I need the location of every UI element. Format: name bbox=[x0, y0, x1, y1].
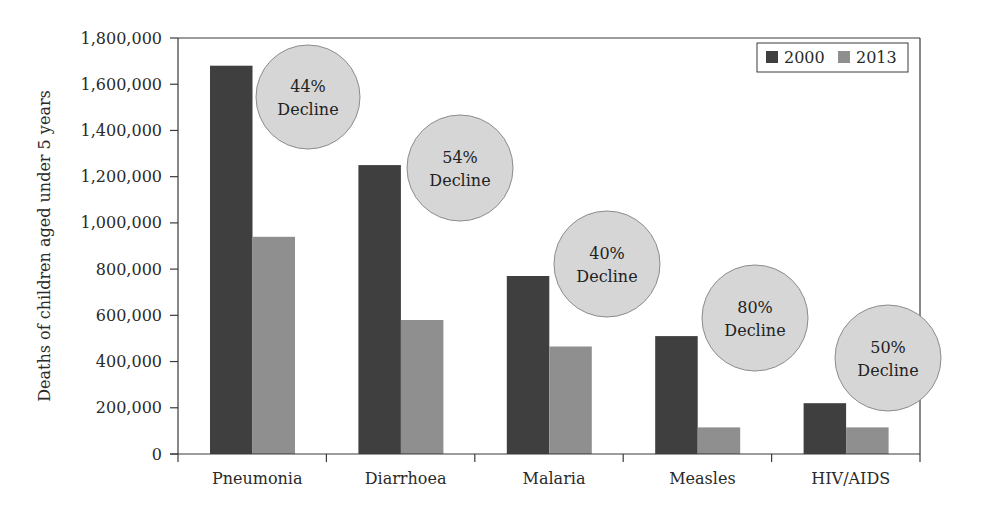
y-tick-label: 1,800,000 bbox=[81, 29, 162, 48]
bubble-label: Decline bbox=[576, 267, 637, 286]
decline-bubble: 50%Decline bbox=[835, 305, 941, 411]
x-category-label: Pneumonia bbox=[212, 469, 303, 488]
legend: 20002013 bbox=[757, 43, 908, 72]
bar-2000-diarrhoea bbox=[358, 165, 401, 454]
y-axis-title-group: Deaths of children aged under 5 years bbox=[35, 90, 54, 402]
bar-2000-pneumonia bbox=[210, 66, 253, 454]
bubble-label: Decline bbox=[857, 361, 918, 380]
decline-bubble: 54%Decline bbox=[407, 115, 513, 221]
decline-bubble: 40%Decline bbox=[554, 211, 660, 317]
bubble-percent: 40% bbox=[589, 244, 625, 263]
y-axis-ticks: 0200,000400,000600,000800,0001,000,0001,… bbox=[81, 29, 178, 464]
x-category-label: Diarrhoea bbox=[365, 469, 447, 488]
bar-2013-hivaids bbox=[846, 427, 889, 454]
x-category-label: Malaria bbox=[523, 469, 586, 488]
bubble-label: Decline bbox=[277, 100, 338, 119]
bubble-percent: 80% bbox=[737, 298, 773, 317]
bar-2000-hivaids bbox=[804, 403, 847, 454]
bubble-circle bbox=[702, 265, 808, 371]
bar-2013-malaria bbox=[549, 347, 592, 455]
legend-label-2013: 2013 bbox=[856, 48, 897, 67]
decline-bubble: 80%Decline bbox=[702, 265, 808, 371]
bubble-circle bbox=[256, 45, 360, 149]
bar-2000-measles bbox=[655, 336, 698, 454]
y-tick-label: 1,200,000 bbox=[81, 167, 162, 186]
y-tick-label: 200,000 bbox=[96, 398, 162, 417]
bubble-percent: 54% bbox=[442, 148, 478, 167]
decline-bubble: 44%Decline bbox=[256, 45, 360, 149]
y-tick-label: 800,000 bbox=[96, 260, 162, 279]
bubble-label: Decline bbox=[429, 171, 490, 190]
y-tick-label: 400,000 bbox=[96, 352, 162, 371]
bubble-circle bbox=[407, 115, 513, 221]
legend-swatch-2000 bbox=[766, 51, 778, 63]
bubble-percent: 44% bbox=[290, 77, 326, 96]
bar-chart: Deaths of children aged under 5 years 02… bbox=[0, 0, 985, 513]
y-tick-label: 0 bbox=[152, 445, 162, 464]
legend-label-2000: 2000 bbox=[784, 48, 825, 67]
bubble-label: Decline bbox=[724, 321, 785, 340]
y-axis-title: Deaths of children aged under 5 years bbox=[35, 90, 54, 402]
bar-2013-diarrhoea bbox=[401, 320, 444, 454]
y-tick-label: 600,000 bbox=[96, 306, 162, 325]
bubble-percent: 50% bbox=[870, 338, 906, 357]
bubble-circle bbox=[554, 211, 660, 317]
bar-2013-pneumonia bbox=[253, 237, 296, 454]
bubble-circle bbox=[835, 305, 941, 411]
x-category-label: Measles bbox=[669, 469, 735, 488]
bar-2000-malaria bbox=[507, 276, 550, 454]
y-tick-label: 1,600,000 bbox=[81, 75, 162, 94]
bar-2013-measles bbox=[698, 427, 741, 454]
x-category-label: HIV/AIDS bbox=[811, 469, 890, 488]
y-tick-label: 1,000,000 bbox=[81, 213, 162, 232]
legend-swatch-2013 bbox=[838, 51, 850, 63]
y-tick-label: 1,400,000 bbox=[81, 121, 162, 140]
x-axis-categories: PneumoniaDiarrhoeaMalariaMeaslesHIV/AIDS bbox=[212, 454, 890, 488]
